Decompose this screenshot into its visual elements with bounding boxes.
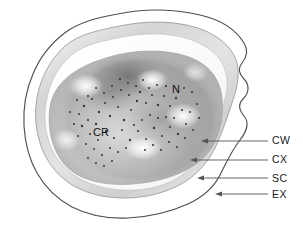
arrowhead-ex [215,191,222,196]
callout-label-sc: SC [272,173,287,184]
callout-label-cx: CX [272,154,287,165]
callout-label-ex: EX [272,189,287,200]
callout-label-cw: CW [272,135,290,146]
label-nucleoid: N [172,84,180,95]
label-core-ribosomes: CR [93,127,109,138]
callout-line-ex [215,191,268,196]
cell-cross-section-figure [0,0,303,233]
diagram-canvas: N CR CW CX SC EX [0,0,303,233]
